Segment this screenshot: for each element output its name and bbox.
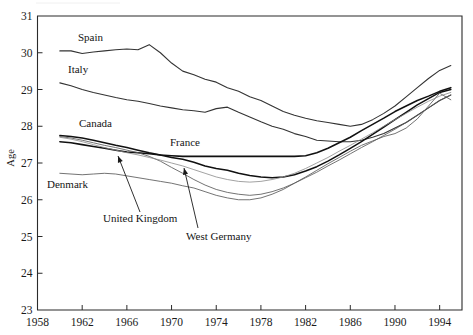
x-tick-label: 1970 [160,316,183,328]
x-tick-label: 1974 [205,316,228,328]
series-line-italy [60,83,451,142]
plot-frame [38,16,463,310]
west-germany-leader-line [184,168,198,228]
united-kingdom-arrowhead [118,156,123,163]
x-tick-label: 1962 [71,316,94,328]
x-tick-label: 1982 [294,316,317,328]
series-label-united-kingdom: United Kingdom [103,212,178,224]
y-tick-label: 23 [21,304,33,316]
series-label-denmark: Denmark [47,178,88,190]
y-tick-label: 25 [21,231,33,243]
x-tick-label: 1986 [339,316,362,328]
x-tick-label: 1958 [26,316,49,328]
series-label-italy: Italy [68,63,89,75]
y-tick-label: 30 [21,47,33,59]
x-tick-label: 1978 [249,316,272,328]
age-at-marriage-line-chart: 232425262728293031Age1958196219661970197… [0,0,473,335]
united-kingdom-leader-line [118,156,140,212]
y-tick-label: 27 [21,157,33,169]
x-tick-label: 1990 [383,316,406,328]
west-germany-arrowhead [183,168,188,175]
y-tick-label: 31 [21,10,33,22]
chart-figure: 232425262728293031Age1958196219661970197… [0,0,473,335]
x-tick-label: 1994 [428,316,451,328]
x-tick-label: 1966 [115,316,138,328]
series-line-canada [60,90,451,178]
y-tick-label: 29 [21,84,33,96]
y-tick-label: 28 [21,120,33,132]
y-tick-label: 24 [21,267,33,279]
series-line-west-germany [60,92,451,182]
series-label-canada: Canada [79,117,112,129]
y-axis-title: Age [5,149,16,167]
y-tick-label: 26 [21,194,33,206]
series-label-west-germany: West Germany [186,230,252,242]
series-label-france: France [170,136,200,148]
series-label-spain: Spain [78,31,104,43]
